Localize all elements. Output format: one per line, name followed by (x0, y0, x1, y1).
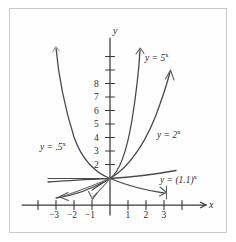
curve-half-power-x-arrowhead-right (160, 187, 167, 196)
x-tick-label-2: 2 (144, 211, 149, 221)
y-tick-label-4: 4 (94, 134, 99, 144)
graph-canvas (0, 0, 236, 242)
curve-label-two-power-x-exponent: x (177, 128, 180, 135)
curve-label-half-power-x: y = .5x (40, 143, 66, 153)
asymptote-tail-lower-arrowhead (89, 192, 98, 200)
curve-label-two-power-x-base: y = 2 (157, 130, 177, 140)
curve-label-one-point-one-power-x: y = (1.1)x (160, 176, 197, 186)
y-tick-label-8: 8 (94, 80, 99, 90)
x-tick-label-minus1: −1 (85, 211, 95, 221)
exponential-functions-figure: 2 3 4 5 6 7 8 −3 −2 −1 1 2 3 y x y = 5x … (0, 0, 236, 242)
x-tick-label-minus2: −2 (67, 211, 77, 221)
y-tick-label-5: 5 (94, 120, 99, 130)
y-tick-label-2: 2 (94, 161, 99, 171)
y-axis-label: y (113, 26, 117, 36)
x-tick-label-minus3: −3 (49, 211, 59, 221)
curve-label-one-point-one-power-x-base: y = (1.1) (160, 175, 194, 185)
curve-five-power-x (92, 50, 140, 190)
x-axis-label: x (209, 200, 213, 210)
curve-label-five-power-x: y = 5x (145, 54, 168, 64)
x-tick-label-1: 1 (126, 211, 131, 221)
curve-label-one-point-one-power-x-exponent: x (194, 173, 197, 180)
y-tick-label-3: 3 (94, 147, 99, 157)
curve-label-half-power-x-base: y = .5 (40, 142, 63, 152)
y-tick-label-6: 6 (94, 107, 99, 117)
curve-label-two-power-x: y = 2x (157, 131, 180, 141)
curve-label-five-power-x-base: y = 5 (145, 53, 165, 63)
curve-label-half-power-x-exponent: x (63, 140, 66, 147)
curve-label-five-power-x-exponent: x (165, 51, 168, 58)
y-tick-label-7: 7 (94, 93, 99, 103)
x-tick-label-3: 3 (162, 211, 167, 221)
